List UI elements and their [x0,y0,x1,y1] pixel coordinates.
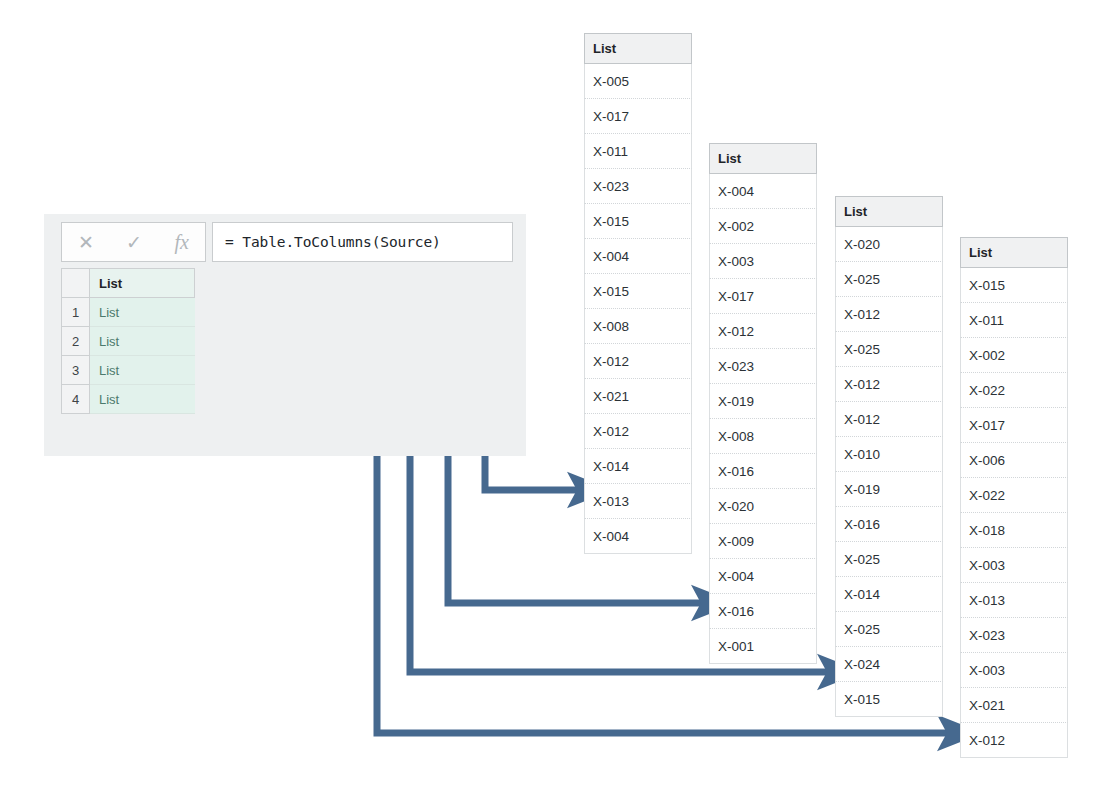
list-item[interactable]: X-024 [835,647,943,682]
list-item[interactable]: X-022 [960,478,1068,513]
column-header-list[interactable]: List [90,269,195,298]
list-item[interactable]: X-021 [584,379,692,414]
list-item[interactable]: X-025 [835,332,943,367]
list-item[interactable]: X-013 [584,484,692,519]
list-card-4: List X-015X-011X-002X-022X-017X-006X-022… [960,237,1068,758]
list-value-cell[interactable]: List [90,327,195,356]
list-card-1: List X-005X-017X-011X-023X-015X-004X-015… [584,33,692,554]
list-item[interactable]: X-011 [960,303,1068,338]
preview-grid-row[interactable]: 1List [62,298,195,327]
checkmark-icon[interactable]: ✓ [126,233,142,252]
fx-icon[interactable]: fx [174,232,188,252]
list-item[interactable]: X-015 [835,682,943,717]
list-item[interactable]: X-011 [584,134,692,169]
list-item[interactable]: X-006 [960,443,1068,478]
list-item[interactable]: X-023 [709,349,817,384]
list-card-2-header: List [709,143,817,174]
list-item[interactable]: X-023 [584,169,692,204]
list-item[interactable]: X-020 [835,227,943,262]
preview-grid: List 1List2List3List4List [61,268,195,414]
list-card-4-header: List [960,237,1068,268]
preview-grid-row[interactable]: 3List [62,356,195,385]
list-item[interactable]: X-012 [835,297,943,332]
list-item[interactable]: X-016 [709,454,817,489]
list-item[interactable]: X-012 [835,402,943,437]
list-item[interactable]: X-014 [584,449,692,484]
list-item[interactable]: X-010 [835,437,943,472]
list-item[interactable]: X-016 [709,594,817,629]
list-item[interactable]: X-012 [584,344,692,379]
list-item[interactable]: X-018 [960,513,1068,548]
list-item[interactable]: X-012 [709,314,817,349]
list-item[interactable]: X-002 [960,338,1068,373]
preview-grid-header-row: List [62,269,195,298]
list-item[interactable]: X-009 [709,524,817,559]
list-item[interactable]: X-019 [835,472,943,507]
list-item[interactable]: X-022 [960,373,1068,408]
list-item[interactable]: X-004 [584,519,692,554]
list-item[interactable]: X-002 [709,209,817,244]
row-index-cell: 4 [62,385,90,414]
formula-bar-buttons: ✕ ✓ fx [61,222,206,262]
list-item[interactable]: X-019 [709,384,817,419]
list-item[interactable]: X-012 [584,414,692,449]
list-item[interactable]: X-013 [960,583,1068,618]
list-item[interactable]: X-021 [960,688,1068,723]
list-item[interactable]: X-004 [584,239,692,274]
list-item[interactable]: X-015 [584,274,692,309]
formula-bar: ✕ ✓ fx = Table.ToColumns(Source) [61,222,513,262]
list-item[interactable]: X-017 [584,99,692,134]
list-value-cell[interactable]: List [90,356,195,385]
list-card-3-items: X-020X-025X-012X-025X-012X-012X-010X-019… [835,227,943,717]
list-item[interactable]: X-008 [584,309,692,344]
list-item[interactable]: X-003 [960,548,1068,583]
list-item[interactable]: X-025 [835,262,943,297]
list-item[interactable]: X-005 [584,64,692,99]
row-index-cell: 2 [62,327,90,356]
list-item[interactable]: X-015 [584,204,692,239]
list-item[interactable]: X-017 [960,408,1068,443]
list-item[interactable]: X-017 [709,279,817,314]
screenshot-canvas: ✕ ✓ fx = Table.ToColumns(Source) List 1L… [0,0,1104,786]
list-item[interactable]: X-001 [709,629,817,664]
list-item[interactable]: X-012 [960,723,1068,758]
list-item[interactable]: X-016 [835,507,943,542]
list-card-1-items: X-005X-017X-011X-023X-015X-004X-015X-008… [584,64,692,554]
list-card-3-header: List [835,196,943,227]
cancel-x-icon[interactable]: ✕ [78,233,94,252]
list-item[interactable]: X-012 [835,367,943,402]
query-editor-panel: ✕ ✓ fx = Table.ToColumns(Source) List 1L… [44,214,526,456]
list-card-1-header: List [584,33,692,64]
list-item[interactable]: X-025 [835,612,943,647]
list-item[interactable]: X-003 [960,653,1068,688]
list-item[interactable]: X-020 [709,489,817,524]
row-index-cell: 3 [62,356,90,385]
list-card-2: List X-004X-002X-003X-017X-012X-023X-019… [709,143,817,664]
row-index-cell: 1 [62,298,90,327]
list-value-cell[interactable]: List [90,385,195,414]
preview-grid-row[interactable]: 2List [62,327,195,356]
list-item[interactable]: X-014 [835,577,943,612]
list-card-3: List X-020X-025X-012X-025X-012X-012X-010… [835,196,943,717]
list-item[interactable]: X-025 [835,542,943,577]
list-item[interactable]: X-003 [709,244,817,279]
list-item[interactable]: X-015 [960,268,1068,303]
list-item[interactable]: X-004 [709,559,817,594]
list-item[interactable]: X-023 [960,618,1068,653]
formula-input[interactable]: = Table.ToColumns(Source) [212,222,513,262]
list-card-4-items: X-015X-011X-002X-022X-017X-006X-022X-018… [960,268,1068,758]
row-index-header [62,269,90,298]
list-card-2-items: X-004X-002X-003X-017X-012X-023X-019X-008… [709,174,817,664]
preview-grid-row[interactable]: 4List [62,385,195,414]
list-value-cell[interactable]: List [90,298,195,327]
list-item[interactable]: X-008 [709,419,817,454]
list-item[interactable]: X-004 [709,174,817,209]
